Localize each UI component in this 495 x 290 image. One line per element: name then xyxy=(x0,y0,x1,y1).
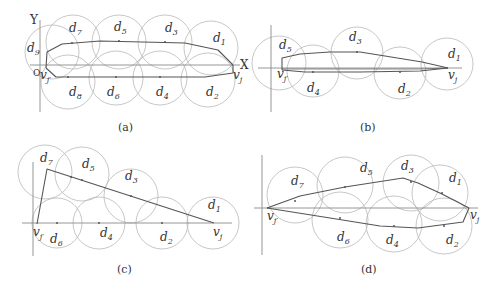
waypoint xyxy=(339,217,341,219)
panel-a: Y X O vj′ vj d9 d7 d5 d3 d1 d8 d6 d4 d2 … xyxy=(25,13,249,134)
panel-d: vj′ vj d7 d5 d3 d1 d6 d4 d2 (d) xyxy=(254,155,480,276)
waypoint xyxy=(67,76,69,78)
waypoint xyxy=(443,225,445,227)
disc-label-d1: d1 xyxy=(448,47,461,63)
disc-label-d2: d2 xyxy=(398,82,411,98)
caption-c: (c) xyxy=(117,263,132,276)
waypoint xyxy=(118,40,120,42)
end-vertex-label: vj xyxy=(470,208,480,224)
caption-a: (a) xyxy=(118,121,133,134)
disc-label-d8: d8 xyxy=(69,85,82,101)
disc-label-d3: d3 xyxy=(165,21,178,37)
disc-label-d5: d5 xyxy=(279,38,292,54)
disc-label-d7: d7 xyxy=(40,151,54,167)
waypoint xyxy=(115,76,117,78)
waypoint xyxy=(393,225,395,227)
waypoint xyxy=(161,222,163,224)
waypoint xyxy=(70,176,72,178)
disc-label-d5: d5 xyxy=(360,161,373,177)
waypoint xyxy=(410,181,412,183)
waypoint xyxy=(81,179,83,181)
disc-label-d5: d5 xyxy=(114,20,127,36)
panel-c: vj′ vj d7 d5 d3 d6 d4 d2 d1 (c) xyxy=(18,145,239,276)
caption-d: (d) xyxy=(361,263,377,276)
disc-label-d3: d3 xyxy=(125,169,138,185)
start-vertex-label: vj′ xyxy=(267,209,278,225)
disc-label-d3: d3 xyxy=(349,30,362,46)
start-vertex-label: vj′ xyxy=(277,67,288,83)
disc-label-d2: d2 xyxy=(446,233,459,249)
waypoint xyxy=(130,195,132,197)
start-vertex-label: vj′ xyxy=(40,68,51,84)
disc-label-d2: d2 xyxy=(206,85,219,101)
panel-b: vj′ vj d5 d4 d3 d2 d1 (b) xyxy=(252,25,473,134)
figure-canvas: Y X O vj′ vj d9 d7 d5 d3 d1 d8 d6 d4 d2 … xyxy=(0,0,495,290)
disc-label-d3: d3 xyxy=(401,159,414,175)
waypoint xyxy=(71,42,73,44)
disc-label-d1: d1 xyxy=(208,198,221,214)
end-vertex-label: vj xyxy=(213,225,223,241)
disc-label-d1: d1 xyxy=(213,31,226,47)
disc-label-d4: d4 xyxy=(100,226,113,242)
disc-label-d6: d6 xyxy=(107,85,120,101)
waypoint xyxy=(344,186,346,188)
y-axis-label: Y xyxy=(29,13,39,27)
lower-path xyxy=(46,65,233,77)
waypoint xyxy=(399,71,401,73)
disc-label-d6: d6 xyxy=(50,232,63,248)
disc-label-d5: d5 xyxy=(82,157,95,173)
disc-label-d7: d7 xyxy=(69,21,83,37)
waypoint xyxy=(294,200,296,202)
start-vertex-label: vj′ xyxy=(33,225,44,241)
waypoint xyxy=(164,41,166,43)
disc-label-d9: d9 xyxy=(27,41,40,57)
end-vertex-label: vj xyxy=(448,68,458,84)
waypoint xyxy=(56,222,58,224)
disc-label-d4: d4 xyxy=(386,233,399,249)
disc-label-d4: d4 xyxy=(307,81,320,97)
x-axis-label: X xyxy=(240,58,249,72)
waypoint xyxy=(356,51,358,53)
disc-label-d2: d2 xyxy=(160,230,173,246)
waypoint xyxy=(441,192,443,194)
disc-label-d6: d6 xyxy=(337,230,350,246)
caption-b: (b) xyxy=(360,121,376,134)
disc-label-d7: d7 xyxy=(291,174,305,190)
disc-label-d4: d4 xyxy=(156,85,169,101)
waypoint xyxy=(98,222,100,224)
waypoint xyxy=(159,76,161,78)
waypoint xyxy=(312,71,314,73)
